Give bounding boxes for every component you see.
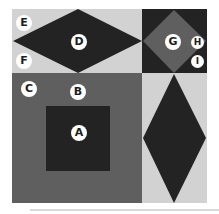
- diagram-canvas: [0, 0, 219, 214]
- label-g: G: [165, 34, 181, 50]
- label-b: B: [70, 84, 86, 100]
- label-i: I: [191, 55, 204, 68]
- label-a: A: [71, 125, 87, 141]
- label-h: H: [191, 36, 204, 49]
- label-c: C: [21, 81, 37, 97]
- bottom-rule: [30, 209, 219, 211]
- label-d: D: [71, 34, 87, 50]
- label-e: E: [16, 15, 32, 31]
- label-f: F: [16, 53, 32, 69]
